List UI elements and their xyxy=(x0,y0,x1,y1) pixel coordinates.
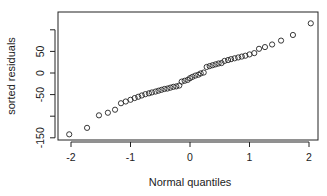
data-point xyxy=(177,83,182,88)
data-point xyxy=(228,57,233,62)
data-point xyxy=(256,46,261,51)
y-tick-label: -50 xyxy=(34,87,46,102)
data-point xyxy=(96,113,101,118)
data-point xyxy=(262,44,267,49)
data-point xyxy=(84,125,89,130)
data-point xyxy=(278,38,283,43)
x-axis: -2-1012 xyxy=(66,142,312,163)
data-points xyxy=(67,21,314,137)
data-point xyxy=(105,110,110,115)
data-point xyxy=(232,56,237,61)
x-tick-label: 2 xyxy=(306,151,312,163)
y-axis-title: sorted residuals xyxy=(5,37,17,115)
data-point xyxy=(308,21,313,26)
x-tick-label: -1 xyxy=(126,151,135,163)
x-axis-title: Normal quantiles xyxy=(149,176,232,188)
data-point xyxy=(236,55,241,60)
x-tick-label: 0 xyxy=(187,151,193,163)
x-tick-label: 1 xyxy=(247,151,253,163)
y-axis: -150-50050 xyxy=(34,30,55,149)
data-point xyxy=(270,42,275,47)
y-tick-label: -150 xyxy=(34,127,46,148)
y-tick-label: 0 xyxy=(34,70,46,76)
data-point xyxy=(239,54,244,59)
data-point xyxy=(112,107,117,112)
y-tick-label: 50 xyxy=(34,45,46,57)
data-point xyxy=(149,90,154,95)
data-point xyxy=(201,70,206,75)
data-point xyxy=(67,132,72,137)
data-point xyxy=(252,51,257,56)
data-point xyxy=(290,32,295,37)
x-tick-label: -2 xyxy=(66,151,75,163)
qq-plot: -2-1012 -150-50050 Normal quantiles sort… xyxy=(0,0,327,196)
